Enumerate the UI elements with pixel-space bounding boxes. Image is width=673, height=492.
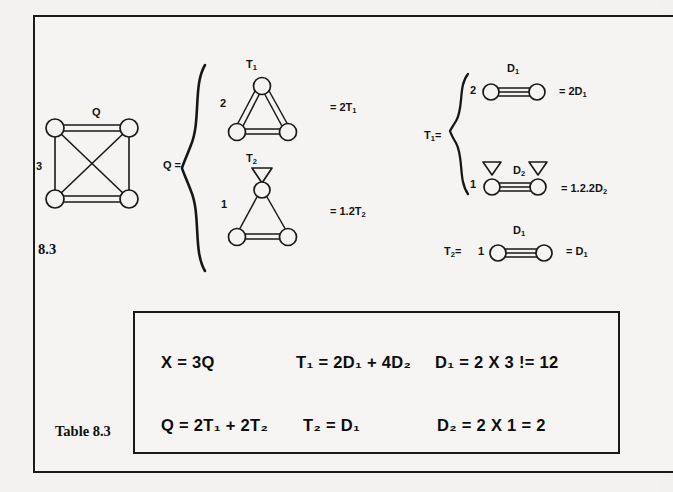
- q-item1-result-sub: 1: [352, 106, 356, 115]
- t2-result-sub: 1: [583, 250, 587, 259]
- t2-lhs-letter: T: [444, 245, 451, 257]
- t1-decomposition-lhs: T1=: [424, 129, 441, 143]
- table-8-3-box: X = 3Q T₁ = 2D₁ + 4D₂ D₁ = 2 X 3 != 12 Q…: [133, 311, 620, 454]
- graph-k4-diagram: [40, 100, 160, 220]
- equation-d2: D₂ = 2 X 1 = 2: [437, 416, 546, 435]
- q-item2-shape-letter: T: [246, 152, 253, 164]
- t2-lhs-eq: =: [455, 245, 461, 257]
- dumbbell-d1-bottom-diagram: [489, 239, 559, 267]
- t1-item1-multiplicity: 2: [470, 84, 476, 96]
- graph-k4-side-label: 3: [36, 160, 42, 172]
- equation-x: X = 3Q: [161, 353, 215, 372]
- figure-caption: 8.3: [38, 241, 56, 258]
- q-item2-result: = 1.2T2: [330, 205, 366, 219]
- t1-lhs-letter: T: [424, 129, 431, 141]
- t1-item1-result-sub: 1: [583, 90, 587, 99]
- q-brace-icon: [181, 63, 215, 273]
- q-item1-shape-letter: T: [246, 58, 253, 70]
- t2-shape-label: D1: [513, 224, 525, 238]
- t1-item1-shape-letter: D: [507, 62, 515, 74]
- t1-item2-result-sub: 2: [603, 187, 607, 196]
- equation-q: Q = 2T₁ + 2T₂: [161, 416, 268, 435]
- t2-result: = D1: [566, 245, 588, 259]
- graph-k4-top-label: Q: [92, 106, 101, 118]
- t2-multiplicity: 1: [478, 245, 484, 257]
- t1-item1-result-text: = 2D: [559, 85, 583, 97]
- t2-result-text: = D: [566, 245, 583, 257]
- q-item2-multiplicity: 1: [221, 198, 227, 210]
- q-item1-shape-label: T1: [246, 58, 257, 72]
- t1-item2-multiplicity: 1: [470, 178, 476, 190]
- q-decomposition-lhs: Q =: [163, 159, 181, 171]
- dumbbell-d1-top-diagram: [482, 78, 552, 106]
- t1-item1-shape-label: D1: [507, 62, 519, 76]
- t2-shape-sub: 1: [521, 229, 525, 238]
- q-item1-multiplicity: 2: [220, 97, 226, 109]
- t2-decomposition-lhs: T2=: [444, 245, 461, 259]
- table-caption: Table 8.3: [55, 423, 111, 440]
- t1-item2-result: = 1.2.2D2: [561, 182, 607, 196]
- q-item2-result-text: = 1.2T: [330, 205, 362, 217]
- t2-shape-letter: D: [513, 224, 521, 236]
- equation-t2: T₂ = D₁: [303, 416, 360, 435]
- t1-item1-result: = 2D1: [559, 85, 587, 99]
- triangle-t2-diagram: [228, 164, 320, 254]
- t1-item2-result-text: = 1.2.2D: [561, 182, 603, 194]
- dumbbell-d2-diagram: [482, 158, 562, 204]
- equation-t1: T₁ = 2D₁ + 4D₂: [296, 353, 411, 372]
- triangle-t1-diagram: [228, 72, 320, 150]
- q-item2-result-sub: 2: [362, 210, 366, 219]
- t1-item1-shape-sub: 1: [515, 67, 519, 76]
- q-item1-result: = 2T1: [330, 101, 357, 115]
- q-item1-result-text: = 2T: [330, 101, 352, 113]
- t1-lhs-eq: =: [435, 129, 441, 141]
- equation-d1: D₁ = 2 X 3 != 12: [435, 353, 559, 372]
- q-item1-shape-sub: 1: [253, 63, 257, 72]
